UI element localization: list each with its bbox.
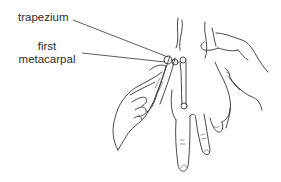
hand-illustration xyxy=(0,0,281,182)
examiner-left-hand xyxy=(113,65,166,150)
examiner-right-hand xyxy=(201,28,268,110)
trapezium-leader-line xyxy=(73,20,168,57)
anatomy-figure: trapezium first metacarpal xyxy=(0,0,281,182)
label-first-metacarpal-line1: first xyxy=(18,40,76,53)
patient-hand xyxy=(147,18,231,171)
label-first-metacarpal: first metacarpal xyxy=(18,40,76,66)
label-trapezium: trapezium xyxy=(18,11,69,24)
first-metacarpal-leader-line xyxy=(82,53,165,62)
label-first-metacarpal-line2: metacarpal xyxy=(18,53,76,66)
